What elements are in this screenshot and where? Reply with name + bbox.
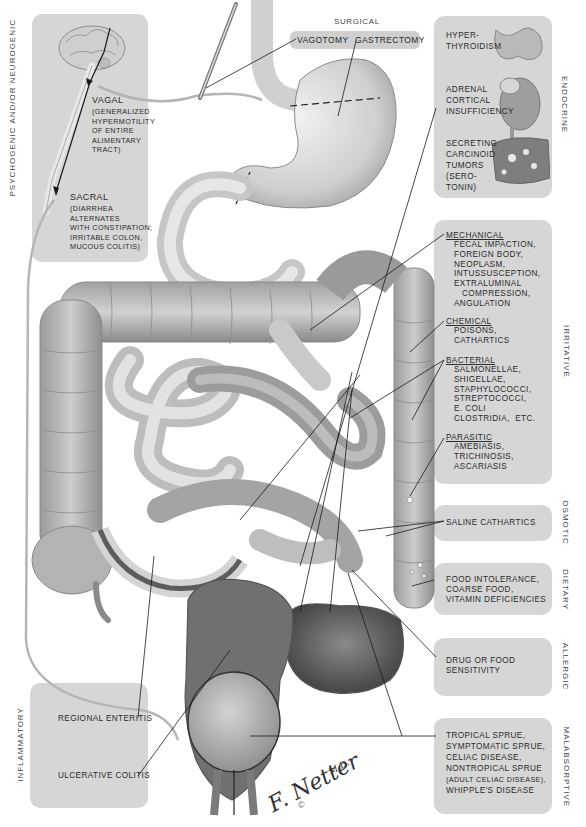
gastrectomy-label: GASTRECTOMY xyxy=(355,35,425,46)
malabsorptive-adult-celiac: (ADULT CELIAC DISEASE), xyxy=(446,774,546,785)
copyright-mark: © xyxy=(298,800,305,810)
allergic-causes: DRUG OR FOOD SENSITIVITY xyxy=(446,656,515,676)
liver-tumor-icon xyxy=(492,138,550,184)
vagotomy-label: VAGOTOMY xyxy=(297,35,349,46)
category-label-osmotic: OSMOTIC xyxy=(561,498,570,548)
hyperthyroidism-label: HYPER- THYROIDISM xyxy=(446,30,501,52)
category-label-irritative: IRRITATIVE xyxy=(562,322,571,382)
adrenal-insufficiency-label: ADRENAL CORTICAL INSUFFICIENCY xyxy=(446,84,514,117)
malabsorptive-line-4: NONTROPICAL SPRUE xyxy=(446,763,542,774)
vagal-heading: VAGAL xyxy=(92,95,123,106)
carcinoid-tumors-label: SECRETING CARCINOID TUMORS (SERO- TONIN) xyxy=(446,138,497,193)
category-label-allergic: ALLERGIC xyxy=(561,642,570,692)
malabsorptive-line-1: TROPICAL SPRUE, xyxy=(446,730,525,741)
sacral-heading: SACRAL xyxy=(70,192,108,203)
category-label-psychogenic: PSYCHOGENIC AND/OR NEUROGENIC xyxy=(8,57,17,197)
bacterial-causes: SALMONELLAE, SHIGELLAE, STAPHYLOCOCCI, S… xyxy=(454,365,535,424)
malabsorptive-line-2: SYMPTOMATIC SPRUE, xyxy=(446,741,545,752)
category-label-surgical: SURGICAL xyxy=(334,17,380,26)
regional-enteritis-label: REGIONAL ENTERITIS xyxy=(58,713,152,724)
category-label-inflammatory: INFLAMMATORY xyxy=(16,705,25,785)
malabsorptive-whipple: WHIPPLE'S DISEASE xyxy=(446,785,534,796)
category-label-malabsorptive: MALABSORPTIVE xyxy=(562,727,571,807)
malabsorptive-line-3: CELIAC DISEASE, xyxy=(446,752,522,763)
sacral-description: (DIARRHEA ALTERNATES WITH CONSTIPATION; … xyxy=(70,204,152,252)
vagal-description: (GENERALIZED HYPERMOTILITY OF ENTIRE ALI… xyxy=(92,107,155,155)
category-label-dietary: DIETARY xyxy=(561,565,570,615)
ulcerative-colitis-label: ULCERATIVE COLITIS xyxy=(58,770,150,781)
parasitic-causes: AMEBIASIS, TRICHINOSIS, ASCARIASIS xyxy=(454,442,514,471)
chemical-causes: POISONS, CATHARTICS xyxy=(454,326,510,346)
dietary-causes: FOOD INTOLERANCE, COARSE FOOD, VITAMIN D… xyxy=(446,575,546,605)
saline-cathartics-label: SALINE CATHARTICS xyxy=(446,517,536,528)
category-label-endocrine: ENDOCRINE xyxy=(560,75,569,135)
mechanical-causes: FECAL IMPACTION, FOREIGN BODY, NEOPLASM,… xyxy=(454,240,540,309)
thyroid-icon xyxy=(495,28,543,60)
